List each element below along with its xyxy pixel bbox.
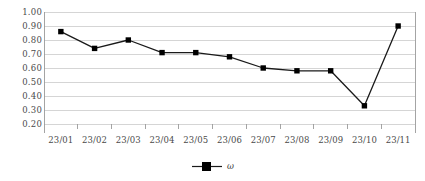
data-point (159, 50, 164, 55)
y-axis-tick-label: 0.20 (16, 120, 42, 129)
x-axis-tick-label: 23/04 (150, 136, 175, 145)
data-point (395, 23, 400, 28)
x-axis-tick-label: 23/11 (386, 136, 411, 145)
data-point (227, 54, 232, 59)
x-axis-tick-label: 23/01 (48, 136, 73, 145)
y-axis-tick-label: 0.60 (16, 64, 42, 73)
x-axis-tick-label: 23/02 (82, 136, 107, 145)
y-axis-tick-label: 1.00 (16, 8, 42, 17)
x-tick-marks (78, 124, 382, 129)
legend-label-omega: ω (227, 162, 234, 171)
legend-marker-icon (191, 161, 223, 172)
y-axis-tick-label: 0.90 (16, 22, 42, 31)
legend-entry-omega: ω (191, 161, 234, 172)
chart-legend: ω (0, 156, 425, 176)
gridlines (44, 12, 415, 124)
x-axis-tick-label: 23/08 (284, 136, 309, 145)
data-point (362, 103, 367, 108)
x-axis-tick-label: 23/10 (352, 136, 377, 145)
data-point (261, 65, 266, 70)
x-axis-tick-label: 23/03 (116, 136, 141, 145)
chart-canvas (0, 0, 425, 150)
data-point (328, 68, 333, 73)
x-axis-tick-label: 23/07 (251, 136, 276, 145)
data-point (294, 68, 299, 73)
y-axis-tick-label: 0.80 (16, 36, 42, 45)
y-axis-tick-label: 0.50 (16, 78, 42, 87)
data-point (58, 29, 63, 34)
y-axis-tick-label: 0.40 (16, 92, 42, 101)
series-line-omega (61, 26, 398, 106)
x-axis-tick-label: 23/06 (217, 136, 242, 145)
x-axis-tick-labels: 23/0123/0223/0323/0423/0523/0623/0723/08… (0, 136, 425, 150)
data-point (126, 37, 131, 42)
y-axis-tick-label: 0.30 (16, 106, 42, 115)
plot-area: 1.000.900.800.700.600.500.400.300.20 23/… (0, 0, 425, 150)
data-point (193, 50, 198, 55)
x-axis-tick-label: 23/05 (183, 136, 208, 145)
y-axis-tick-label: 0.70 (16, 50, 42, 59)
x-axis-tick-label: 23/09 (318, 136, 343, 145)
axis-lines (44, 12, 415, 133)
y-axis-tick-labels: 1.000.900.800.700.600.500.400.300.20 (0, 0, 42, 150)
line-chart: 1.000.900.800.700.600.500.400.300.20 23/… (0, 0, 425, 181)
data-point (92, 46, 97, 51)
